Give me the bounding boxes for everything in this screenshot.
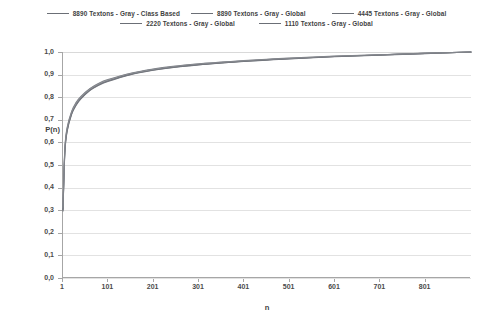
y-tick-label: 1,0	[14, 48, 54, 55]
y-tick-label: 0,5	[14, 161, 54, 168]
x-tick-label: 101	[87, 283, 127, 290]
x-tick-label: 501	[269, 283, 309, 290]
chart-container: 8890 Textons - Gray - Class Based 8890 T…	[0, 0, 493, 326]
x-tick-label: 201	[133, 283, 173, 290]
legend-item-4445-global[interactable]: 4445 Textons - Gray - Global	[332, 10, 447, 17]
legend-swatch-icon	[120, 23, 142, 24]
x-tick-label: 601	[314, 283, 354, 290]
legend-swatch-icon	[332, 13, 354, 14]
legend-item-label: 8890 Textons - Gray - Global	[217, 10, 306, 17]
legend-row: 8890 Textons - Gray - Class Based 8890 T…	[47, 10, 447, 17]
x-tick-label: 1	[42, 283, 82, 290]
x-tick-label: 701	[359, 283, 399, 290]
legend-item-label: 4445 Textons - Gray - Global	[358, 10, 447, 17]
legend-item-8890-global[interactable]: 8890 Textons - Gray - Global	[191, 10, 306, 17]
x-tick-label: 301	[178, 283, 218, 290]
y-tick-label: 0,0	[14, 274, 54, 281]
legend-item-8890-class-based[interactable]: 8890 Textons - Gray - Class Based	[47, 10, 180, 17]
y-tick-label: 0,7	[14, 115, 54, 122]
y-tick-label: 0,9	[14, 70, 54, 77]
x-axis-label: n	[246, 303, 288, 312]
legend-swatch-icon	[47, 13, 69, 14]
gridline	[63, 278, 471, 279]
legend-item-1110-global[interactable]: 1110 Textons - Gray - Global	[259, 20, 373, 27]
legend-swatch-icon	[191, 13, 213, 14]
legend-swatch-icon	[259, 23, 281, 24]
y-tick-label: 0,4	[14, 183, 54, 190]
y-tick-label: 0,6	[14, 138, 54, 145]
x-tick-label: 801	[405, 283, 445, 290]
y-tick-label: 0,8	[14, 93, 54, 100]
series-line	[63, 52, 471, 207]
legend-item-label: 8890 Textons - Gray - Class Based	[73, 10, 180, 17]
x-tick-label: 401	[223, 283, 263, 290]
legend-item-label: 2220 Textons - Gray - Global	[146, 20, 235, 27]
legend-item-label: 1110 Textons - Gray - Global	[285, 20, 373, 27]
chart-legend: 8890 Textons - Gray - Class Based 8890 T…	[0, 10, 493, 27]
y-tick-label: 0,1	[14, 251, 54, 258]
y-axis-label: P(n)	[18, 125, 60, 134]
legend-row: 2220 Textons - Gray - Global 1110 Texton…	[120, 20, 373, 27]
y-tick-label: 0,2	[14, 228, 54, 235]
y-tick-label: 0,3	[14, 206, 54, 213]
legend-item-2220-global[interactable]: 2220 Textons - Gray - Global	[120, 20, 235, 27]
series-lines	[63, 52, 471, 278]
series-line	[63, 52, 471, 211]
plot-area	[62, 52, 470, 278]
